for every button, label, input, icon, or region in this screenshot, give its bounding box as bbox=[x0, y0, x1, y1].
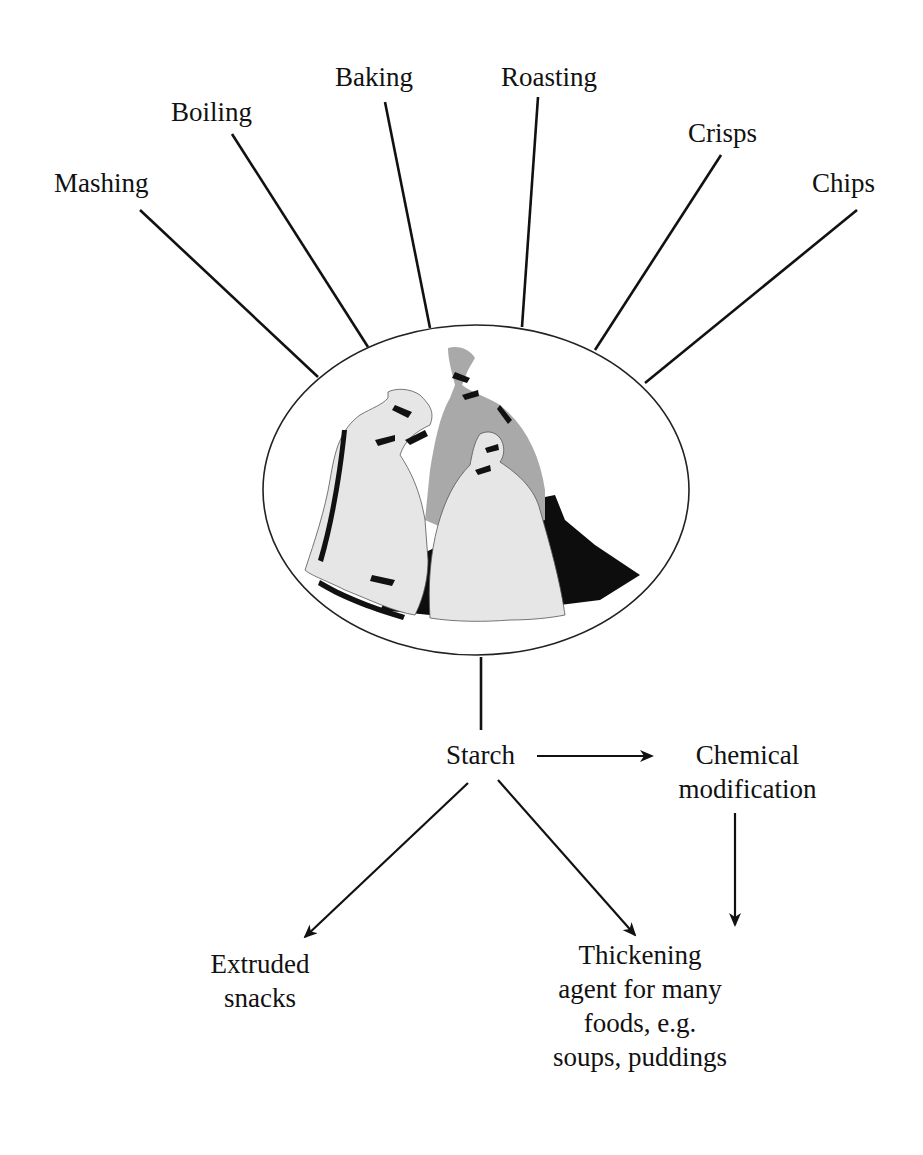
extruded-line-1: Extruded bbox=[195, 947, 325, 981]
chemical-line-1: Chemical bbox=[660, 738, 835, 772]
label-chemical-modification: Chemical modification bbox=[660, 738, 835, 806]
label-chips: Chips bbox=[812, 166, 875, 200]
arrow-starch-to-thickening bbox=[498, 780, 635, 935]
spoke-mashing bbox=[140, 210, 318, 377]
thickening-line-4: soups, puddings bbox=[480, 1040, 800, 1074]
label-boiling: Boiling bbox=[171, 95, 252, 129]
label-baking: Baking bbox=[335, 60, 413, 94]
chemical-line-2: modification bbox=[660, 772, 835, 806]
label-mashing: Mashing bbox=[54, 166, 149, 200]
spoke-baking bbox=[385, 102, 430, 328]
spoke-roasting bbox=[522, 97, 538, 327]
potato-uses-diagram: Mashing Boiling Baking Roasting Crisps C… bbox=[0, 0, 923, 1155]
arrow-starch-to-extruded bbox=[305, 783, 468, 937]
label-extruded-snacks: Extruded snacks bbox=[195, 947, 325, 1015]
thickening-line-1: Thickening bbox=[480, 938, 800, 972]
label-thickening-agent: Thickening agent for many foods, e.g. so… bbox=[480, 938, 800, 1074]
extruded-line-2: snacks bbox=[195, 981, 325, 1015]
spoke-crisps bbox=[595, 155, 721, 350]
label-starch: Starch bbox=[446, 738, 515, 772]
thickening-line-3: foods, e.g. bbox=[480, 1006, 800, 1040]
label-roasting: Roasting bbox=[501, 60, 597, 94]
label-crisps: Crisps bbox=[688, 116, 757, 150]
spoke-chips bbox=[645, 210, 857, 383]
thickening-line-2: agent for many bbox=[480, 972, 800, 1006]
